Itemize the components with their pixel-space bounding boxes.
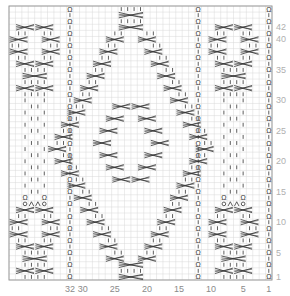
twisted-knit-symbol: Ω (67, 225, 72, 232)
twisted-knit-symbol: Ω (196, 79, 201, 86)
row-label: 30 (276, 95, 286, 105)
twisted-knit-symbol: Ω (22, 194, 27, 201)
twisted-knit-symbol: Ω (196, 103, 201, 110)
column-label: 30 (78, 284, 88, 294)
twisted-knit-symbol: Ω (67, 213, 72, 220)
column-label: 32 (65, 284, 75, 294)
row-label: 20 (276, 156, 286, 166)
column-label: 1 (266, 284, 271, 294)
twisted-knit-symbol: Ω (266, 273, 271, 280)
twisted-knit-symbol: Ω (196, 54, 201, 61)
twisted-knit-symbol: Ω (266, 103, 271, 110)
twisted-knit-symbol: Ω (67, 273, 72, 280)
decrease-symbol (36, 202, 40, 206)
yarn-over-symbol (23, 202, 27, 206)
twisted-knit-symbol: Ω (67, 176, 72, 183)
twisted-knit-symbol: Ω (67, 79, 72, 86)
twisted-knit-symbol: Ω (196, 213, 201, 220)
row-label: 35 (276, 65, 286, 75)
twisted-knit-symbol: Ω (266, 176, 271, 183)
twisted-knit-symbol: Ω (196, 42, 201, 49)
row-label: 25 (276, 126, 286, 136)
twisted-knit-symbol: Ω (67, 66, 72, 73)
twisted-knit-symbol: Ω (196, 188, 201, 195)
twisted-knit-symbol: Ω (67, 54, 72, 61)
twisted-knit-symbol: Ω (196, 91, 201, 98)
twisted-knit-symbol: Ω (266, 79, 271, 86)
twisted-knit-symbol: Ω (67, 261, 72, 268)
row-label: 10 (276, 217, 286, 227)
decrease-symbol (234, 202, 238, 206)
twisted-knit-symbol: Ω (196, 273, 201, 280)
twisted-knit-symbol: Ω (42, 194, 47, 201)
decrease-symbol (228, 202, 232, 206)
twisted-knit-symbol: Ω (266, 42, 271, 49)
yarn-over-symbol (222, 202, 226, 206)
yarn-over-symbol (42, 202, 46, 206)
twisted-knit-symbol: Ω (196, 18, 201, 25)
twisted-knit-symbol: Ω (196, 140, 201, 147)
column-label: 10 (206, 284, 216, 294)
column-label: 25 (110, 284, 120, 294)
twisted-knit-symbol: Ω (196, 237, 201, 244)
row-label: 42 (276, 22, 286, 32)
twisted-knit-symbol: Ω (266, 54, 271, 61)
column-label: 20 (142, 284, 152, 294)
yarn-over-symbol (241, 202, 245, 206)
row-label: 5 (276, 248, 281, 258)
twisted-knit-symbol: Ω (266, 200, 271, 207)
twisted-knit-symbol: Ω (196, 30, 201, 37)
twisted-knit-symbol: Ω (266, 115, 271, 122)
twisted-knit-symbol: Ω (266, 140, 271, 147)
twisted-knit-symbol: Ω (196, 66, 201, 73)
row-label: 40 (276, 34, 286, 44)
twisted-knit-symbol: Ω (196, 6, 201, 13)
column-label: 15 (174, 284, 184, 294)
chart-grid (9, 6, 272, 280)
chart-symbols: ΩΩΩΩΩΩΩΩΩΩΩΩΩΩΩΩΩΩΩΩΩΩΩΩΩΩΩΩΩΩΩΩΩΩΩΩΩΩΩΩ… (10, 6, 272, 281)
row-label: 1 (276, 272, 281, 282)
twisted-knit-symbol: Ω (266, 261, 271, 268)
twisted-knit-symbol: Ω (266, 152, 271, 159)
twisted-knit-symbol: Ω (266, 225, 271, 232)
twisted-knit-symbol: Ω (196, 225, 201, 232)
twisted-knit-symbol: Ω (196, 200, 201, 207)
twisted-knit-symbol: Ω (196, 261, 201, 268)
twisted-knit-symbol: Ω (266, 18, 271, 25)
twisted-knit-symbol: Ω (266, 213, 271, 220)
row-label: 15 (276, 187, 286, 197)
twisted-knit-symbol: Ω (67, 237, 72, 244)
column-label: 5 (241, 284, 246, 294)
twisted-knit-symbol: Ω (266, 30, 271, 37)
column-labels: 32302520151051 (65, 284, 271, 294)
twisted-knit-symbol: Ω (266, 237, 271, 244)
twisted-knit-symbol: Ω (266, 127, 271, 134)
row-labels: 151015202530354042 (276, 22, 286, 282)
twisted-knit-symbol: Ω (67, 30, 72, 37)
twisted-knit-symbol: Ω (266, 6, 271, 13)
twisted-knit-symbol: Ω (266, 164, 271, 171)
twisted-knit-symbol: Ω (196, 176, 201, 183)
decrease-symbol (29, 202, 33, 206)
twisted-knit-symbol: Ω (67, 18, 72, 25)
twisted-knit-symbol: Ω (67, 103, 72, 110)
twisted-knit-symbol: Ω (67, 249, 72, 256)
twisted-knit-symbol: Ω (266, 91, 271, 98)
twisted-knit-symbol: Ω (67, 91, 72, 98)
twisted-knit-symbol: Ω (67, 188, 72, 195)
twisted-knit-symbol: Ω (266, 188, 271, 195)
twisted-knit-symbol: Ω (221, 194, 226, 201)
twisted-knit-symbol: Ω (67, 140, 72, 147)
twisted-knit-symbol: Ω (196, 249, 201, 256)
knitting-chart: ΩΩΩΩΩΩΩΩΩΩΩΩΩΩΩΩΩΩΩΩΩΩΩΩΩΩΩΩΩΩΩΩΩΩΩΩΩΩΩΩ… (0, 0, 290, 296)
twisted-knit-symbol: Ω (67, 200, 72, 207)
twisted-knit-symbol: Ω (266, 249, 271, 256)
twisted-knit-symbol: Ω (67, 42, 72, 49)
twisted-knit-symbol: Ω (241, 194, 246, 201)
twisted-knit-symbol: Ω (67, 6, 72, 13)
twisted-knit-symbol: Ω (266, 66, 271, 73)
